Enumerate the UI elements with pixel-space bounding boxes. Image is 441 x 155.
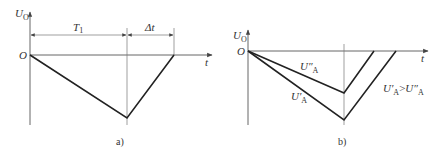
y-axis-label: UO [15, 7, 29, 22]
x-axis-label: t [205, 56, 209, 68]
comparison-annotation: U′A>U″A [383, 82, 424, 97]
x-axis-label: t [421, 52, 425, 64]
integrator-waveform-diagram: UO O t T1 Δt a) UO O t U″A U′A U′A>U″A b… [0, 0, 441, 155]
output-voltage-curve [30, 55, 174, 118]
origin-label: O [19, 49, 27, 61]
origin-label: O [237, 45, 245, 57]
dt-label: Δt [144, 21, 155, 33]
caption-b: b) [338, 136, 346, 148]
curve-u-a-double-prime [248, 51, 374, 93]
caption-a: a) [116, 136, 124, 148]
t1-label: T1 [73, 21, 83, 35]
y-axis-label: UO [233, 29, 247, 44]
panel-b: UO O t U″A U′A U′A>U″A b) [233, 29, 428, 148]
panel-a: UO O t T1 Δt a) [15, 7, 212, 148]
label-u-a-double-prime: U″A [300, 60, 319, 75]
